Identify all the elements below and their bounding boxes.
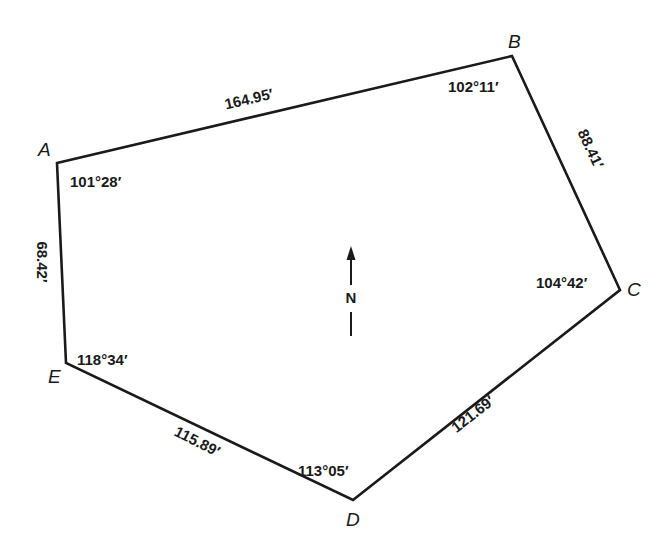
- edge-length-labels: 164.95′ 88.41′ 121.69′ 115.89′ 68.42′: [34, 85, 608, 460]
- diagram-svg: N A B C D E 101°28′ 102°11′ 104°42′ 113°…: [0, 0, 664, 550]
- angle-label-d: 113°05′: [298, 462, 349, 479]
- vertex-label-b: B: [508, 31, 521, 52]
- edge-length-cd: 121.69′: [448, 391, 498, 435]
- angle-label-c: 104°42′: [536, 274, 588, 291]
- interior-angle-labels: 101°28′ 102°11′ 104°42′ 113°05′ 118°34′: [70, 78, 588, 479]
- edge-length-ab: 164.95′: [223, 85, 275, 113]
- angle-label-b: 102°11′: [448, 78, 499, 95]
- traverse-diagram: N A B C D E 101°28′ 102°11′ 104°42′ 113°…: [0, 0, 664, 550]
- edge-length-ea: 68.42′: [34, 241, 51, 283]
- north-arrow: N: [346, 246, 357, 336]
- vertex-label-a: A: [37, 139, 51, 160]
- vertex-label-d: D: [346, 509, 360, 530]
- angle-label-a: 101°28′: [70, 173, 122, 190]
- north-arrow-head-icon: [347, 246, 356, 260]
- vertex-label-c: C: [627, 279, 641, 300]
- edge-length-bc: 88.41′: [575, 126, 608, 171]
- vertex-label-e: E: [48, 366, 61, 387]
- edge-length-de: 115.89′: [172, 422, 223, 459]
- angle-label-e: 118°34′: [77, 351, 128, 368]
- north-label: N: [346, 289, 357, 306]
